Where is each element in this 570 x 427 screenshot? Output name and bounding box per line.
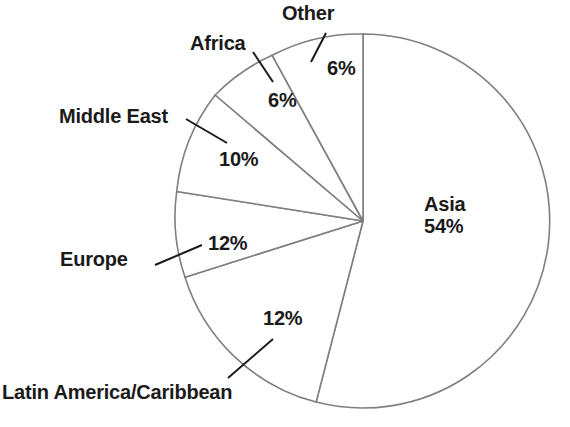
slice-value-latin-america-caribbean: 12% (263, 307, 302, 329)
slice-label-latin-america-caribbean: Latin America/Caribbean (2, 381, 232, 403)
slice-value-europe: 12% (208, 232, 247, 254)
slice-label-asia: Asia (424, 193, 465, 215)
slice-label-africa: Africa (190, 32, 246, 54)
slice-label-middle-east: Middle East (59, 105, 168, 127)
slice-value-other: 6% (327, 57, 356, 79)
slice-label-other: Other (282, 2, 334, 24)
pie-chart-graphic (0, 0, 570, 427)
slice-value-middle-east: 10% (219, 148, 258, 170)
slice-label-europe: Europe (60, 248, 128, 270)
pie-chart-figure: Other Africa Middle East Europe Latin Am… (0, 0, 570, 427)
slice-label-asia-group: Asia 54% (424, 193, 465, 238)
slice-value-asia: 54% (424, 215, 465, 237)
slice-value-africa: 6% (268, 89, 297, 111)
